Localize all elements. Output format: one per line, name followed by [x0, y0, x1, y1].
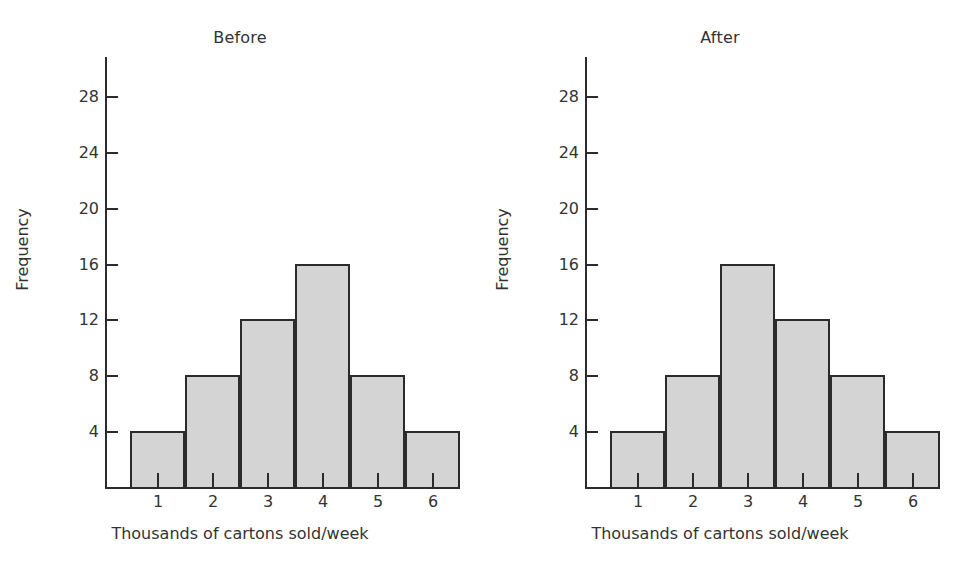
- x-tick-mark: [637, 473, 639, 487]
- y-tick-label: 28: [55, 89, 99, 105]
- x-tick-label: 2: [193, 494, 233, 510]
- y-axis-label-before: Frequency: [13, 190, 32, 310]
- x-tick-label: 6: [893, 494, 933, 510]
- histogram-bar: [240, 319, 295, 489]
- y-tick-label: 16: [55, 257, 99, 273]
- y-tick-mark: [587, 96, 598, 98]
- y-tick-label: 12: [55, 312, 99, 328]
- plot-area-before: Frequency 4 8 12 16 20 24 28: [0, 0, 480, 575]
- y-tick-mark: [587, 319, 598, 321]
- x-tick-mark: [802, 473, 804, 487]
- x-tick-label: 4: [303, 494, 343, 510]
- y-tick-mark: [107, 375, 118, 377]
- y-tick-mark: [107, 319, 118, 321]
- x-tick-mark: [377, 473, 379, 487]
- histogram-bar: [665, 375, 720, 489]
- y-tick-label: 20: [535, 201, 579, 217]
- histogram-bar: [720, 264, 775, 489]
- y-tick-mark: [107, 431, 118, 433]
- histogram-bar: [775, 319, 830, 489]
- y-tick-label: 8: [55, 368, 99, 384]
- x-tick-mark: [692, 473, 694, 487]
- histogram-figure: Before Frequency 4 8 12 16 20 24 28: [0, 0, 960, 575]
- x-tick-mark: [267, 473, 269, 487]
- y-tick-mark: [587, 208, 598, 210]
- x-tick-label: 6: [413, 494, 453, 510]
- plot-area-after: Frequency 4 8 12 16 20 24 28 1: [480, 0, 960, 575]
- x-tick-label: 5: [358, 494, 398, 510]
- x-axis-label-before: Thousands of cartons sold/week: [0, 524, 480, 543]
- chart-panel-before: Before Frequency 4 8 12 16 20 24 28: [0, 0, 480, 575]
- y-tick-label: 8: [535, 368, 579, 384]
- y-tick-mark: [587, 152, 598, 154]
- x-tick-label: 1: [618, 494, 658, 510]
- chart-panel-after: After Frequency 4 8 12 16 20 24 28: [480, 0, 960, 575]
- x-tick-label: 5: [838, 494, 878, 510]
- x-tick-mark: [857, 473, 859, 487]
- y-axis-line-after: [585, 57, 587, 489]
- y-tick-mark: [107, 96, 118, 98]
- y-tick-mark: [107, 264, 118, 266]
- x-tick-mark: [747, 473, 749, 487]
- y-tick-label: 4: [535, 424, 579, 440]
- x-tick-label: 1: [138, 494, 178, 510]
- x-tick-label: 2: [673, 494, 713, 510]
- y-axis-line-before: [105, 57, 107, 489]
- y-tick-mark: [587, 375, 598, 377]
- y-tick-label: 24: [535, 145, 579, 161]
- x-tick-mark: [157, 473, 159, 487]
- y-tick-mark: [587, 431, 598, 433]
- x-tick-label: 3: [248, 494, 288, 510]
- x-tick-mark: [912, 473, 914, 487]
- y-tick-label: 28: [535, 89, 579, 105]
- y-tick-label: 16: [535, 257, 579, 273]
- y-tick-mark: [107, 208, 118, 210]
- x-axis-label-after: Thousands of cartons sold/week: [480, 524, 960, 543]
- histogram-bar: [295, 264, 350, 489]
- histogram-bar: [830, 375, 885, 489]
- y-tick-label: 20: [55, 201, 99, 217]
- y-tick-label: 12: [535, 312, 579, 328]
- x-tick-mark: [212, 473, 214, 487]
- y-tick-label: 4: [55, 424, 99, 440]
- histogram-bar: [350, 375, 405, 489]
- histogram-bar: [185, 375, 240, 489]
- y-tick-mark: [587, 264, 598, 266]
- x-tick-label: 3: [728, 494, 768, 510]
- y-tick-label: 24: [55, 145, 99, 161]
- x-tick-label: 4: [783, 494, 823, 510]
- y-axis-label-after: Frequency: [493, 190, 512, 310]
- x-tick-mark: [322, 473, 324, 487]
- x-tick-mark: [432, 473, 434, 487]
- y-tick-mark: [107, 152, 118, 154]
